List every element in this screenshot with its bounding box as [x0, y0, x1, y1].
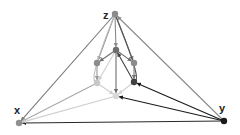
- edge-b-to-x: [22, 96, 116, 122]
- node-r1: [131, 60, 137, 66]
- edge-z-to-c: [115, 14, 116, 47]
- graph-canvas: z x y: [0, 0, 240, 135]
- edge-z-to-x: [21, 14, 115, 121]
- node-b: [113, 93, 119, 99]
- edges-layer: [21, 14, 224, 123]
- edge-y-to-r2: [137, 83, 224, 121]
- node-y: [221, 118, 227, 124]
- node-r2: [131, 79, 137, 85]
- node-label-y: y: [219, 102, 226, 114]
- edge-l2-to-x: [22, 83, 97, 122]
- node-z: [112, 11, 118, 17]
- edge-y-to-b: [119, 97, 224, 121]
- node-label-x: x: [14, 104, 21, 116]
- edge-y-to-z: [117, 16, 224, 121]
- node-x: [16, 120, 22, 126]
- node-l2: [94, 80, 100, 86]
- edge-y-to-x: [22, 121, 224, 123]
- node-label-z: z: [103, 9, 109, 21]
- node-c: [113, 47, 119, 53]
- edge-c-to-l2: [99, 50, 116, 80]
- node-l1: [94, 60, 100, 66]
